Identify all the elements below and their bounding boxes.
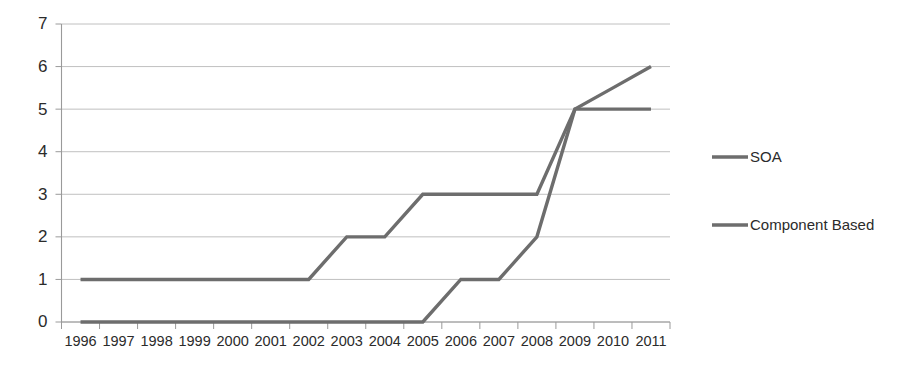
x-axis-tick-label: 2006 (445, 333, 477, 349)
x-axis-tick-label: 2004 (369, 333, 401, 349)
chart-canvas: 01234567 1996199719981999200020012002200… (0, 0, 915, 375)
x-axis-tick-label: 2003 (331, 333, 363, 349)
x-axis-tick-label: 2000 (217, 333, 249, 349)
x-axis-tick-label: 2011 (635, 333, 666, 349)
line-chart: 01234567 1996199719981999200020012002200… (0, 0, 915, 375)
x-axis-tick-label: 2005 (407, 333, 439, 349)
y-axis-tick-label: 3 (38, 185, 47, 204)
gridlines-group (62, 24, 671, 322)
x-axis-tick-label: 1996 (64, 333, 96, 349)
y-axis-tick-label: 0 (38, 312, 47, 331)
y-axis-tick-label: 6 (38, 57, 47, 76)
legend-label-component-based[interactable]: Component Based (750, 216, 874, 233)
x-axis-tick-label: 1999 (178, 333, 210, 349)
x-axis-tick-label: 1998 (140, 333, 172, 349)
x-axis-tick-label: 2009 (559, 333, 591, 349)
legend-group: SOAComponent Based (712, 148, 874, 233)
y-axis-tick-label: 4 (38, 142, 47, 161)
x-axis-tick-label: 2008 (521, 333, 553, 349)
x-axis-tick-label: 1997 (102, 333, 134, 349)
y-axis-tick-label: 1 (38, 270, 47, 289)
y-axis-tick-label: 5 (38, 100, 47, 119)
y-axis-tick-label: 7 (38, 14, 47, 33)
x-axis-tick-label: 2001 (255, 333, 287, 349)
x-axis-tick-label: 2007 (483, 333, 515, 349)
y-axis-tick-label: 2 (38, 227, 47, 246)
y-axis-group (56, 24, 62, 322)
x-tick-labels-group: 1996199719981999200020012002200320042005… (64, 333, 666, 349)
x-axis-tick-label: 2002 (293, 333, 325, 349)
x-axis-tick-label: 2010 (597, 333, 629, 349)
legend-label-soa[interactable]: SOA (750, 148, 782, 165)
y-tick-labels-group: 01234567 (38, 14, 47, 331)
